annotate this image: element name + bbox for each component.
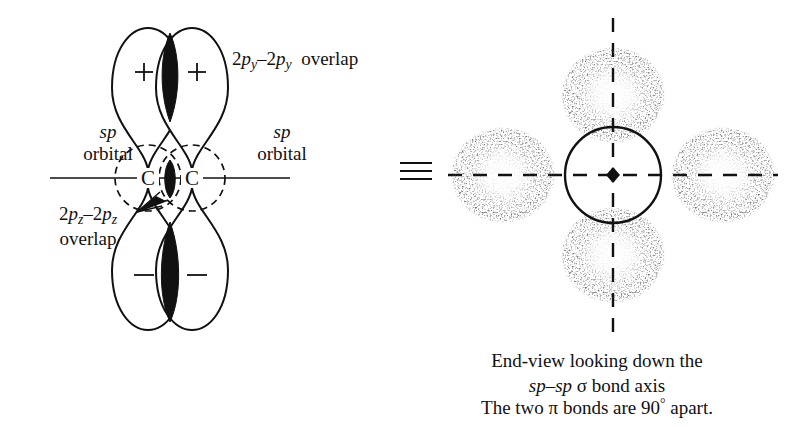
py-overlap-sub2: y [286,57,292,72]
sp-orbital-right-line2: orbital [257,143,307,164]
py-overlap-suffix: overlap [301,48,358,69]
equivalence-symbol [398,155,434,187]
pz-overlap-p1: p [68,203,78,224]
sp-orbital-left-line2: orbital [83,143,133,164]
end-view-caption-sp-sp: sp–sp [529,375,572,396]
pi-caption-post: apart. [670,397,713,418]
sp-orbital-label-right: sporbital [236,121,328,166]
sp-orbital-label-left: sporbital [62,121,154,166]
sigma-overlap-region [165,160,176,198]
equivalence-symbol-icon [398,155,434,187]
pi-bonds-caption: The two π bonds are 90° apart. [432,396,762,419]
py-overlap-p1: p [242,48,252,69]
pz-pz-overlap-label: 2pz–2pzoverlap [36,203,140,250]
carbon-label-right: C [185,166,199,190]
sp-orbital-right-line1: sp [274,121,291,142]
pi-caption-mid: bonds are 90 [563,397,660,418]
pi-caption-degree: ° [660,396,665,411]
pi-caption-pi-symbol: π [549,397,559,418]
pz-overlap-dash: – [83,203,93,224]
end-view-caption-line1: End-view looking down the [491,350,703,371]
py-overlap-dash: – [257,48,267,69]
end-view-caption-line2-post: bond axis [592,375,665,396]
pz-overlap-suffix: overlap [60,228,117,249]
py-overlap-prefix: 2 [232,48,242,69]
end-view-lobe-top [561,47,665,143]
pz-overlap-prefix2: 2 [93,203,103,224]
end-view-caption-sigma: σ [577,375,587,396]
py-overlap-p2: p [276,48,286,69]
end-view-lobe-left [451,127,555,223]
right-diagram-svg [440,10,786,340]
right-diagram [440,10,786,340]
pz-overlap-sub2: z [112,212,117,227]
carbon-nucleus-dot [606,167,620,183]
py-overlap-prefix2: 2 [267,48,277,69]
end-view-caption: End-view looking down thesp–sp σ bond ax… [432,348,762,399]
pz-overlap-prefix: 2 [59,203,69,224]
carbon-label-left: C [141,166,155,190]
end-view-lobe-bottom [561,207,665,303]
pi-caption-pre: The two [481,397,544,418]
orbital-overlap-figure: C C 2py–2py overlap sporbital sporbital … [0,0,786,427]
sp-orbital-left-line1: sp [100,121,117,142]
py-py-overlap-label: 2py–2py overlap [232,48,358,73]
end-view-lobe-right [671,127,775,223]
pz-overlap-p2: p [102,203,112,224]
